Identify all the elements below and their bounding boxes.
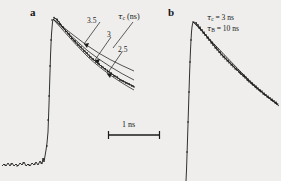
tau-b-units: ns: [232, 24, 239, 33]
tau-b-value: 10: [223, 24, 231, 33]
panel-b-data-markers: [186, 21, 277, 153]
figure-root: a b 3.5 3 2.5 τc (ns) 1 ns τc = 3 ns τB …: [0, 0, 281, 181]
panel-a-plot: [2, 17, 135, 167]
tau-c-axis-label: τc (ns): [118, 12, 140, 21]
panel-b-annotation-line-2: τB = 10 ns: [207, 24, 239, 35]
panel-a-leader-35: [84, 22, 100, 44]
tau-subscript-b: B: [211, 27, 215, 33]
panel-b-annotation: τc = 3 ns τB = 10 ns: [207, 13, 239, 35]
tau-subscript: c: [122, 15, 125, 21]
panel-b-annotation-line-1: τc = 3 ns: [207, 13, 239, 24]
scalebar: [108, 131, 160, 139]
curve-label-2-5: 2.5: [118, 45, 127, 54]
panel-a-leader-25: [107, 52, 122, 74]
tau-subscript-c: c: [211, 16, 213, 22]
tau-c-units: ns: [227, 13, 234, 22]
panel-a-leader-3: [95, 37, 111, 60]
panel-a-data-trace: [2, 18, 134, 166]
panel-a-label: a: [30, 6, 36, 18]
panel-b-label: b: [168, 6, 174, 18]
equals-sign-2: =: [217, 24, 221, 33]
tau-units: (ns): [127, 12, 139, 21]
scalebar-label: 1 ns: [122, 120, 135, 129]
equals-sign-1: =: [215, 13, 219, 22]
tau-c-value: 3: [222, 13, 226, 22]
panel-b-plot: [186, 21, 279, 181]
curve-label-3: 3: [107, 30, 111, 39]
panel-b-data-trace: [186, 22, 278, 181]
curve-label-3-5: 3.5: [87, 16, 96, 25]
